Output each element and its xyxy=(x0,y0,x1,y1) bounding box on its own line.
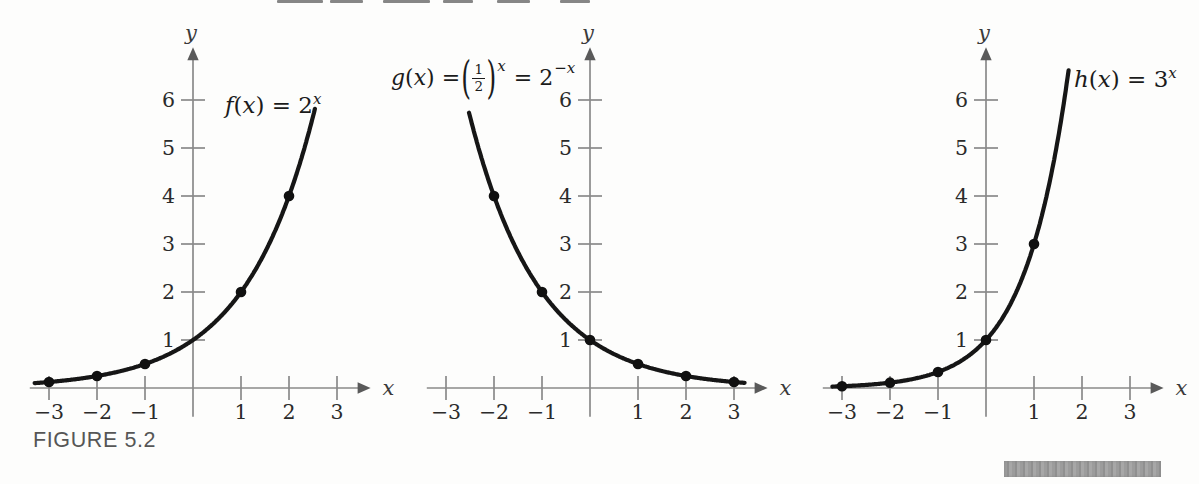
y-axis-arrowhead xyxy=(187,47,198,60)
function-label-g: g(x) =(12)x= 2−x xyxy=(391,61,575,93)
data-point xyxy=(933,367,944,378)
data-point xyxy=(1029,239,1040,250)
y-axis-label: y xyxy=(581,21,595,45)
y-axis-label: y xyxy=(184,21,198,45)
function-curve xyxy=(832,70,1068,386)
y-axis-label: y xyxy=(977,21,991,45)
y-tick-label: 2 xyxy=(559,280,572,304)
data-point xyxy=(140,359,151,370)
big-right-paren: ) xyxy=(486,55,496,100)
x-tick-label: 3 xyxy=(1123,400,1136,424)
big-left-paren: ( xyxy=(461,55,471,100)
y-tick-label: 1 xyxy=(559,328,572,352)
gray-highlight-bar xyxy=(1004,461,1161,477)
y-tick-label: 3 xyxy=(162,232,175,256)
x-tick-label: 1 xyxy=(234,400,247,424)
x-tick-label: 2 xyxy=(1075,400,1088,424)
y-axis-arrowhead xyxy=(584,47,595,60)
x-tick-label: 3 xyxy=(330,400,343,424)
x-axis-arrowhead xyxy=(358,382,371,393)
data-point xyxy=(729,377,740,388)
figure-caption: FIGURE 5.2 xyxy=(33,428,156,453)
graph-f-exponential: xy123456−3−2−1123 xyxy=(0,0,400,460)
cropped-text-fragment xyxy=(443,0,473,3)
data-point xyxy=(681,371,692,382)
data-point xyxy=(885,377,896,388)
y-tick-label: 1 xyxy=(162,328,175,352)
data-point xyxy=(537,287,548,298)
x-axis-label: x xyxy=(780,376,792,400)
x-tick-label: −1 xyxy=(923,400,953,424)
data-point xyxy=(284,191,295,202)
y-tick-label: 6 xyxy=(955,88,968,112)
data-point xyxy=(44,377,55,388)
y-axis-arrowhead xyxy=(980,47,991,60)
cropped-text-fragment xyxy=(497,0,530,3)
x-tick-label: −3 xyxy=(34,400,64,424)
y-tick-label: 4 xyxy=(559,184,572,208)
g-exponent: x xyxy=(497,57,505,75)
y-tick-label: 4 xyxy=(162,184,175,208)
function-label-f: f(x) = 2x xyxy=(225,90,321,118)
y-tick-label: 5 xyxy=(955,136,968,160)
figure-5-2-page: xy123456−3−2−1123 xy123456−3−2−1123 xy12… xyxy=(0,0,1199,484)
g-name: g xyxy=(391,65,405,90)
h-name: h xyxy=(1074,66,1089,92)
f-name: f xyxy=(225,92,234,118)
function-label-h: h(x) = 3x xyxy=(1074,64,1177,92)
x-tick-label: 1 xyxy=(631,400,644,424)
x-tick-label: −2 xyxy=(875,400,905,424)
x-tick-label: −3 xyxy=(827,400,857,424)
y-tick-label: 4 xyxy=(955,184,968,208)
x-tick-label: 3 xyxy=(727,400,740,424)
data-point xyxy=(489,191,500,202)
x-axis-arrowhead xyxy=(1151,382,1164,393)
cropped-text-fragment xyxy=(560,0,590,3)
data-point xyxy=(585,335,596,346)
fraction-one-half: 12 xyxy=(472,62,486,94)
x-tick-label: 2 xyxy=(679,400,692,424)
y-tick-label: 5 xyxy=(162,136,175,160)
x-tick-label: −1 xyxy=(527,400,557,424)
cropped-text-fragment xyxy=(330,0,363,3)
g-exponent-2: −x xyxy=(554,59,575,77)
function-curve xyxy=(469,113,745,383)
y-tick-label: 5 xyxy=(559,136,572,160)
x-tick-label: −3 xyxy=(431,400,461,424)
data-point xyxy=(236,287,247,298)
x-tick-label: −2 xyxy=(82,400,112,424)
x-tick-label: 1 xyxy=(1027,400,1040,424)
x-axis-arrowhead xyxy=(755,382,768,393)
x-tick-label: 2 xyxy=(282,400,295,424)
data-point xyxy=(837,381,848,392)
y-tick-label: 3 xyxy=(955,232,968,256)
x-axis-label: x xyxy=(1176,376,1188,400)
data-point xyxy=(633,359,644,370)
y-tick-label: 3 xyxy=(559,232,572,256)
x-axis-label: x xyxy=(383,376,395,400)
cropped-text-fragment xyxy=(277,0,323,3)
data-point xyxy=(92,371,103,382)
data-point xyxy=(981,335,992,346)
y-tick-label: 6 xyxy=(162,88,175,112)
y-tick-label: 1 xyxy=(955,328,968,352)
y-tick-label: 2 xyxy=(162,280,175,304)
y-tick-label: 2 xyxy=(955,280,968,304)
x-tick-label: −2 xyxy=(479,400,509,424)
cropped-text-fragment xyxy=(383,0,430,3)
x-tick-label: −1 xyxy=(130,400,160,424)
